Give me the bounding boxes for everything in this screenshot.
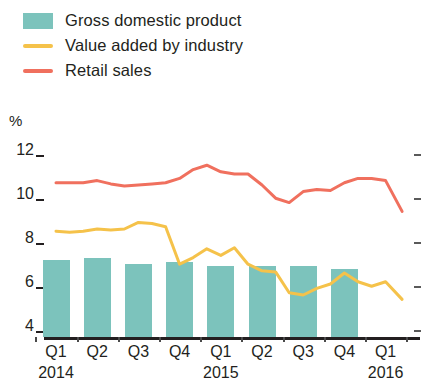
x-axis-tick-label: Q3 — [115, 343, 161, 361]
x-axis-tick-label: Q1 — [198, 343, 244, 361]
chart-plot-area: % 1210864 Q1Q2Q3Q4Q1Q2Q3Q4Q1 20142015201… — [0, 0, 428, 387]
x-axis-tick-mark — [200, 337, 202, 342]
x-axis-tick-label: Q4 — [321, 343, 367, 361]
x-axis-tick-mark — [77, 337, 79, 342]
chart-page: Gross domestic product Value added by in… — [0, 0, 428, 387]
line-value-added-by-industry — [56, 222, 402, 299]
x-axis-tick-mark — [35, 337, 37, 342]
x-axis-tick-label: Q2 — [74, 343, 120, 361]
x-axis-year-label: 2015 — [191, 364, 251, 382]
x-axis-tick-mark — [159, 337, 161, 342]
x-axis-tick-label: Q1 — [33, 343, 79, 361]
x-axis-tick-mark — [241, 337, 243, 342]
x-axis-tick-label: Q1 — [363, 343, 409, 361]
x-axis-year-label: 2014 — [26, 364, 86, 382]
x-axis-tick-mark — [406, 337, 408, 342]
line-retail-sales — [56, 165, 402, 211]
line-series-group — [0, 0, 428, 387]
x-axis-tick-label: Q4 — [157, 343, 203, 361]
x-axis-tick-mark — [118, 337, 120, 342]
x-axis-line — [44, 337, 420, 340]
x-axis-tick-label: Q3 — [280, 343, 326, 361]
x-axis-tick-mark — [365, 337, 367, 342]
x-axis-tick-mark — [283, 337, 285, 342]
x-axis-tick-mark — [324, 337, 326, 342]
x-axis-tick-label: Q2 — [239, 343, 285, 361]
x-axis-year-label: 2016 — [356, 364, 416, 382]
